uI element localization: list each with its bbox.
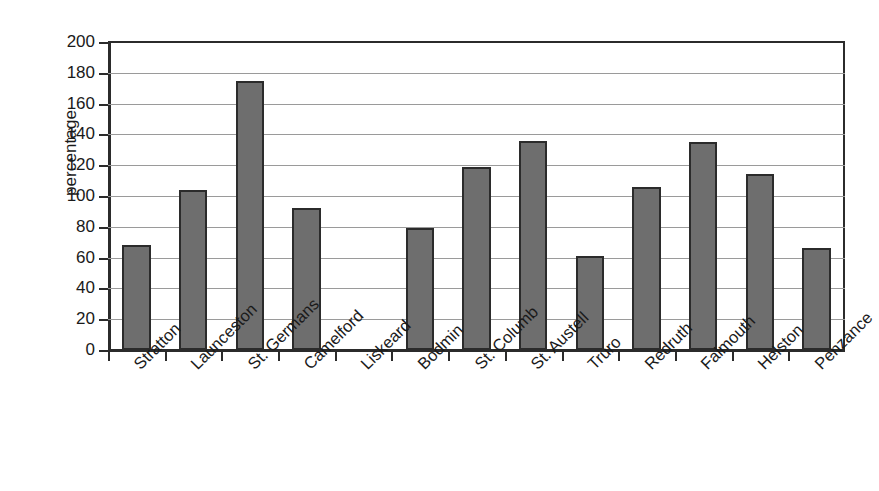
y-axis-tick-mark: [99, 227, 108, 229]
y-axis-tick-label: 0: [86, 340, 95, 360]
plot-area: 020406080100120140160180200: [108, 42, 845, 350]
y-axis-tick-mark: [99, 288, 108, 290]
y-axis-tick-label: 200: [67, 32, 95, 52]
x-axis-tick-mark: [732, 351, 734, 361]
y-axis-tick-label: 120: [67, 155, 95, 175]
y-axis-tick-label: 160: [67, 94, 95, 114]
y-axis-tick-mark: [99, 73, 108, 75]
y-axis-tick-mark: [99, 134, 108, 136]
y-axis-tick-label: 180: [67, 63, 95, 83]
y-axis-tick-mark: [99, 42, 108, 44]
bar: [689, 142, 717, 350]
bar: [802, 248, 830, 350]
y-axis-tick-mark: [99, 104, 108, 106]
y-axis-tick-label: 140: [67, 124, 95, 144]
x-axis-tick-mark: [562, 351, 564, 361]
x-axis-tick-mark: [448, 351, 450, 361]
gridline: [108, 73, 845, 74]
x-axis-tick-mark: [335, 351, 337, 361]
y-axis-tick-mark: [99, 319, 108, 321]
y-axis-tick-label: 20: [76, 309, 95, 329]
bar: [462, 167, 490, 350]
y-axis-tick-label: 60: [76, 248, 95, 268]
plot-border-top: [108, 41, 845, 43]
x-axis-tick-mark: [165, 351, 167, 361]
y-axis-tick-mark: [99, 350, 108, 352]
gridline: [108, 104, 845, 105]
bar: [122, 245, 150, 350]
x-axis-tick-mark: [788, 351, 790, 361]
bar-chart: percentage 020406080100120140160180200 S…: [0, 0, 879, 491]
y-axis-tick-mark: [99, 165, 108, 167]
y-axis-tick-label: 100: [67, 186, 95, 206]
x-axis-tick-mark: [618, 351, 620, 361]
x-axis-tick-mark: [108, 351, 110, 361]
bar: [179, 190, 207, 350]
x-axis-tick-mark: [391, 351, 393, 361]
y-axis-tick-mark: [99, 196, 108, 198]
gridline: [108, 134, 845, 135]
bar: [632, 187, 660, 350]
bar: [576, 256, 604, 350]
y-axis-tick-mark: [99, 258, 108, 260]
y-axis-tick-label: 80: [76, 217, 95, 237]
x-axis-tick-mark: [221, 351, 223, 361]
y-axis-tick-label: 40: [76, 278, 95, 298]
